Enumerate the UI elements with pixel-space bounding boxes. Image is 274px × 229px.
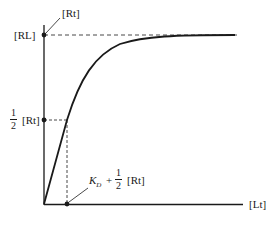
kd-half-fraction: 1 2 <box>115 168 122 191</box>
rl-point <box>42 33 47 38</box>
half-fraction: 1 2 <box>10 108 17 131</box>
rl-label: [RL] <box>14 30 35 41</box>
rt-label: [Rt] <box>62 8 80 19</box>
half-rt-point <box>42 118 47 123</box>
half-rt-label: [Rt] <box>22 115 40 126</box>
x-axis-label: [Lt] <box>249 199 266 210</box>
kd-k-label: KD <box>89 175 101 189</box>
binding-curve-plot <box>0 0 274 229</box>
kd-plus-label: + <box>106 175 112 186</box>
kd-rt-label: [Rt] <box>127 175 145 186</box>
kd-point <box>65 202 70 207</box>
kd-pointer-arrow <box>69 188 88 202</box>
rt-pointer-arrow <box>46 18 60 33</box>
